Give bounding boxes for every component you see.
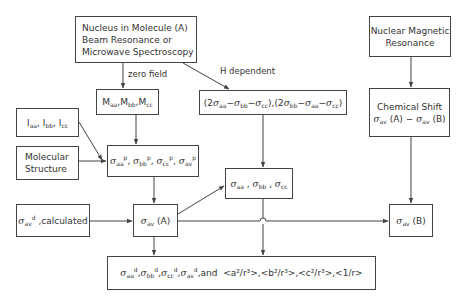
- edge-inertia-to-para: [79, 122, 102, 160]
- node-formula: σav (A): [141, 215, 170, 227]
- node-text-line: Resonance: [386, 37, 435, 49]
- edge-sigma-a-to-tensor: [178, 186, 224, 214]
- sigma-av-b-node: σav (B): [389, 204, 433, 237]
- shielding-tensor-node: σaa , σbb , σcc: [225, 168, 293, 199]
- node-formula: σav (B): [396, 215, 425, 227]
- spin-rotation-node: Maa,Mbb,Mcc: [96, 89, 159, 115]
- edge-sigma-a-to-sigma-b: [178, 218, 388, 221]
- edge-label-h-dependent: H dependent: [220, 66, 275, 76]
- diagram-canvas: Nucleus in Molecule (A) Beam Resonance o…: [0, 0, 471, 306]
- node-text-line: Molecular: [25, 151, 69, 163]
- result-node: σaad,σbbd,σccd,σavd,and <a²/r³>,<b²/r³>,…: [107, 256, 376, 290]
- node-formula: (2σaa−σbb−σcc),(2σbb−σaa−σcc): [204, 97, 343, 109]
- sigma-av-a-node: σav (A): [133, 204, 178, 237]
- node-formula: σaa , σbb , σcc: [230, 178, 287, 190]
- node-text-line: Nuclear Magnetic: [371, 25, 450, 37]
- molecular-structure-node: Molecular Structure: [16, 146, 79, 180]
- node-formula: σaap, σbbp, σccp, σavp: [110, 155, 196, 167]
- edge-label-zero-field: zero field: [128, 69, 167, 79]
- node-formula: σav (A) − σav (B): [373, 113, 445, 125]
- node-formula: σaad,σbbd,σccd,σavd,and <a²/r³>,<b²/r³>,…: [120, 267, 362, 279]
- anisotropy-node: (2σaa−σbb−σcc),(2σbb−σaa−σcc): [199, 90, 347, 115]
- node-text-line: Structure: [25, 163, 67, 175]
- paramagnetic-shielding-node: σaap, σbbp, σccp, σavp: [107, 145, 199, 177]
- source-nmr-node: Nuclear Magnetic Resonance: [369, 16, 451, 57]
- node-text-line: Microwave Spectroscopy: [82, 46, 193, 58]
- node-formula: Maa,Mbb,Mcc: [102, 96, 153, 108]
- chemical-shift-node: Chemical Shift σav (A) − σav (B): [369, 88, 450, 137]
- moments-of-inertia-node: Iaa, Ibb, Icc: [16, 108, 79, 137]
- diamagnetic-calculated-node: σavd ,calculated: [16, 204, 90, 237]
- node-formula: Iaa, Ibb, Icc: [27, 117, 68, 129]
- node-text-line: Chemical Shift: [377, 101, 442, 113]
- node-text-line: Nucleus in Molecule (A): [82, 22, 188, 34]
- source-beam-resonance-node: Nucleus in Molecule (A) Beam Resonance o…: [75, 16, 197, 63]
- node-formula: σavd ,calculated: [18, 215, 87, 227]
- node-text-line: Beam Resonance or: [82, 34, 172, 46]
